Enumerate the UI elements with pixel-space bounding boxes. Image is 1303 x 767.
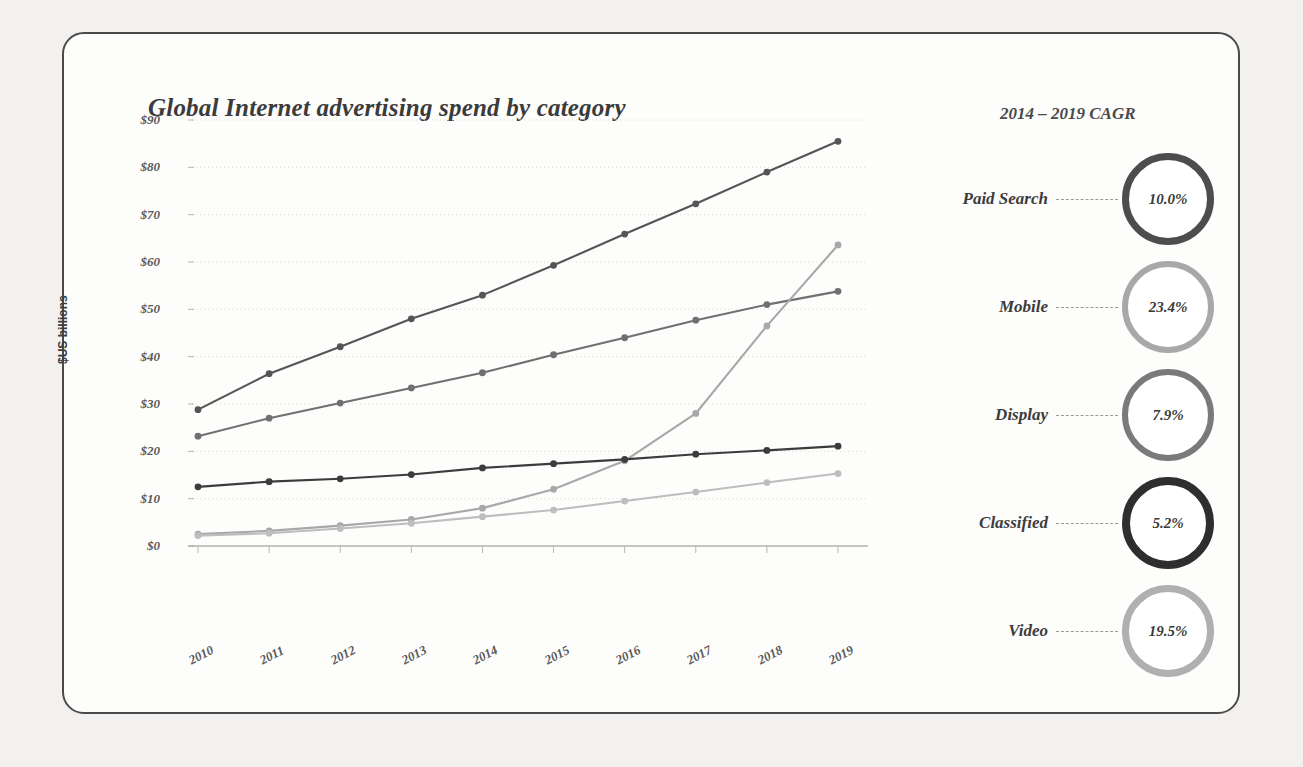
data-point-marker <box>763 447 770 454</box>
line-chart-plot <box>170 112 870 598</box>
data-point-marker <box>266 530 273 537</box>
series-line <box>198 245 838 534</box>
data-point-marker <box>195 433 202 440</box>
cagr-row: Classified5.2% <box>904 470 1234 576</box>
cagr-ring: 19.5% <box>1122 585 1214 677</box>
data-point-marker <box>479 292 486 299</box>
x-axis-tick-label: 2013 <box>399 642 429 668</box>
data-point-marker <box>550 460 557 467</box>
x-axis-tick-label: 2015 <box>542 642 572 668</box>
data-point-marker <box>266 478 273 485</box>
data-point-marker <box>408 385 415 392</box>
data-point-marker <box>479 465 486 472</box>
data-point-marker <box>621 498 628 505</box>
data-point-marker <box>337 525 344 532</box>
y-axis-tick-label: $70 <box>141 207 161 223</box>
cagr-row: Mobile23.4% <box>904 254 1234 360</box>
cagr-ring: 23.4% <box>1122 261 1214 353</box>
y-axis-tick-label: $10 <box>141 491 161 507</box>
series-line <box>198 474 838 536</box>
x-axis-tick-labels: 2010201120122013201420152016201720182019 <box>170 654 890 724</box>
data-point-marker <box>408 315 415 322</box>
cagr-leader-line <box>1056 307 1118 308</box>
y-axis-tick-label: $30 <box>141 396 161 412</box>
series-line <box>198 446 838 487</box>
x-axis-tick-label: 2011 <box>257 643 287 669</box>
data-point-marker <box>692 410 699 417</box>
x-axis-tick-label: 2018 <box>755 642 785 668</box>
cagr-ring: 5.2% <box>1122 477 1214 569</box>
data-point-marker <box>763 169 770 176</box>
x-axis-tick-label: 2010 <box>186 642 216 668</box>
cagr-category-label: Video <box>1008 621 1048 641</box>
data-point-marker <box>479 505 486 512</box>
data-point-marker <box>266 370 273 377</box>
x-axis-tick-label: 2017 <box>684 642 714 668</box>
y-axis-tick-label: $0 <box>147 538 160 554</box>
cagr-value: 19.5% <box>1149 623 1188 640</box>
cagr-row: Display7.9% <box>904 362 1234 468</box>
y-axis-tick-label: $60 <box>141 254 161 270</box>
data-point-marker <box>692 451 699 458</box>
cagr-leader-line <box>1056 199 1118 200</box>
cagr-header: 2014 – 2019 CAGR <box>1000 104 1136 124</box>
y-axis-tick-label: $50 <box>141 301 161 317</box>
data-point-marker <box>337 400 344 407</box>
data-point-marker <box>408 520 415 527</box>
cagr-category-label: Mobile <box>999 297 1048 317</box>
cagr-value: 10.0% <box>1149 191 1188 208</box>
cagr-ring: 10.0% <box>1122 153 1214 245</box>
y-axis-tick-label: $20 <box>141 443 161 459</box>
data-point-marker <box>692 489 699 496</box>
cagr-row: Paid Search10.0% <box>904 146 1234 252</box>
data-point-marker <box>835 242 842 249</box>
data-point-marker <box>337 475 344 482</box>
data-point-marker <box>479 369 486 376</box>
data-point-marker <box>835 443 842 450</box>
chart-svg <box>170 112 870 598</box>
y-axis-tick-label: $80 <box>141 159 161 175</box>
data-point-marker <box>621 334 628 341</box>
x-axis-tick-label: 2014 <box>470 642 500 668</box>
data-point-marker <box>266 415 273 422</box>
data-point-marker <box>835 138 842 145</box>
data-point-marker <box>621 456 628 463</box>
data-point-marker <box>692 200 699 207</box>
data-point-marker <box>195 406 202 413</box>
y-axis-title: $US billions <box>56 295 70 364</box>
x-axis-tick-label: 2019 <box>826 642 856 668</box>
data-point-marker <box>408 471 415 478</box>
data-point-marker <box>835 288 842 295</box>
data-point-marker <box>550 486 557 493</box>
data-point-marker <box>550 262 557 269</box>
cagr-ring: 7.9% <box>1122 369 1214 461</box>
cagr-leader-line <box>1056 415 1118 416</box>
y-axis-tick-labels: $0$10$20$30$40$50$60$70$80$90 <box>104 112 160 672</box>
cagr-leader-line <box>1056 523 1118 524</box>
cagr-value: 23.4% <box>1149 299 1188 316</box>
data-point-marker <box>337 343 344 350</box>
x-axis-tick-label: 2012 <box>328 642 358 668</box>
data-point-marker <box>550 351 557 358</box>
cagr-leader-line <box>1056 631 1118 632</box>
series-line <box>198 141 838 409</box>
y-axis-tick-label: $40 <box>141 349 161 365</box>
cagr-value: 5.2% <box>1152 515 1183 532</box>
data-point-marker <box>195 483 202 490</box>
cagr-legend-panel: 2014 – 2019 CAGR Paid Search10.0%Mobile2… <box>904 94 1234 694</box>
cagr-category-label: Paid Search <box>963 189 1048 209</box>
data-point-marker <box>763 479 770 486</box>
data-point-marker <box>763 323 770 330</box>
slide-frame: Global Internet advertising spend by cat… <box>62 32 1240 714</box>
data-point-marker <box>479 513 486 520</box>
data-point-marker <box>621 231 628 238</box>
data-point-marker <box>835 470 842 477</box>
data-point-marker <box>195 532 202 539</box>
cagr-category-label: Classified <box>979 513 1048 533</box>
cagr-category-label: Display <box>995 405 1048 425</box>
data-point-marker <box>550 507 557 514</box>
cagr-row: Video19.5% <box>904 578 1234 684</box>
data-point-marker <box>763 301 770 308</box>
y-axis-tick-label: $90 <box>141 112 161 128</box>
x-axis-tick-label: 2016 <box>613 642 643 668</box>
